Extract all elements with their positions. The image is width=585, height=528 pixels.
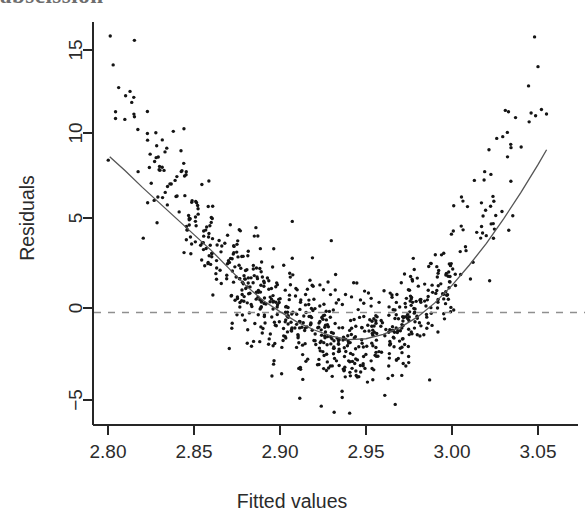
data-point	[284, 320, 287, 323]
data-point	[401, 337, 404, 340]
data-point	[363, 329, 366, 332]
data-point	[446, 293, 449, 296]
y-tick-label: 10	[65, 122, 86, 143]
data-point	[202, 229, 205, 232]
data-point	[257, 313, 260, 316]
data-point	[270, 315, 273, 318]
data-point	[288, 298, 291, 301]
data-point	[407, 345, 410, 348]
data-point	[291, 220, 294, 223]
data-point	[326, 360, 329, 363]
data-point	[190, 201, 193, 204]
data-point	[442, 297, 445, 300]
data-point	[189, 235, 192, 238]
y-tick-label: 5	[65, 213, 86, 224]
data-point	[175, 194, 178, 197]
data-point	[233, 265, 236, 268]
data-point	[207, 232, 210, 235]
data-point	[158, 169, 161, 172]
data-point	[269, 332, 272, 335]
data-point	[296, 333, 299, 336]
data-point	[215, 259, 218, 262]
data-point	[377, 301, 380, 304]
y-axis-title: Residuals	[16, 175, 38, 261]
data-point	[430, 324, 433, 327]
data-point	[391, 374, 394, 377]
data-point	[237, 264, 240, 267]
data-point	[461, 228, 464, 231]
data-point	[350, 295, 353, 298]
data-point	[295, 323, 298, 326]
data-point	[307, 303, 310, 306]
data-point	[166, 185, 169, 188]
data-point	[409, 275, 412, 278]
data-point	[272, 362, 275, 365]
data-point	[270, 374, 273, 377]
data-point	[261, 275, 264, 278]
data-point	[317, 358, 320, 361]
data-point	[416, 276, 419, 279]
data-point	[132, 96, 135, 99]
data-point	[194, 215, 197, 218]
data-point	[343, 368, 346, 371]
data-point	[271, 300, 274, 303]
data-point	[196, 212, 199, 215]
data-point	[507, 110, 510, 113]
data-point	[447, 298, 450, 301]
data-point	[259, 306, 262, 309]
data-point	[288, 272, 291, 275]
data-point	[209, 244, 212, 247]
data-point	[326, 280, 329, 283]
data-point	[247, 276, 250, 279]
data-point	[509, 180, 512, 183]
data-point	[349, 319, 352, 322]
data-point	[425, 327, 428, 330]
data-point	[262, 285, 265, 288]
data-point	[344, 375, 347, 378]
data-point	[448, 275, 451, 278]
data-point-outlier	[533, 35, 536, 38]
data-point	[377, 350, 380, 353]
data-point	[107, 158, 110, 161]
data-point	[362, 302, 365, 305]
data-point	[344, 293, 347, 296]
data-point-outlier	[194, 200, 197, 203]
data-point	[228, 347, 231, 350]
data-point	[263, 296, 266, 299]
data-point	[452, 308, 455, 311]
x-axis-title: Fitted values	[237, 490, 348, 512]
data-point	[240, 288, 243, 291]
data-point	[314, 343, 317, 346]
data-point	[239, 267, 242, 270]
data-point-layer	[107, 34, 549, 415]
data-point	[355, 281, 358, 284]
data-point	[337, 326, 340, 329]
data-point	[494, 214, 497, 217]
data-point	[124, 94, 127, 97]
data-point	[184, 173, 187, 176]
data-point-outlier	[173, 179, 176, 182]
data-point	[491, 195, 494, 198]
data-point	[253, 234, 256, 237]
data-point	[252, 267, 255, 270]
data-point	[246, 254, 249, 257]
data-point	[425, 315, 428, 318]
data-point	[175, 175, 178, 178]
data-point	[375, 332, 378, 335]
data-point	[229, 223, 232, 226]
data-point	[366, 380, 369, 383]
data-point	[350, 333, 353, 336]
data-point	[386, 377, 389, 380]
data-point	[335, 359, 338, 362]
data-point	[235, 313, 238, 316]
data-point	[274, 285, 277, 288]
data-point	[459, 250, 462, 253]
data-point	[148, 166, 151, 169]
data-point-outlier	[185, 170, 188, 173]
data-point	[451, 267, 454, 270]
data-point	[481, 231, 484, 234]
data-point	[251, 281, 254, 284]
y-axis-ticks: −5051015	[65, 39, 94, 410]
data-point	[183, 194, 186, 197]
data-point	[284, 288, 287, 291]
